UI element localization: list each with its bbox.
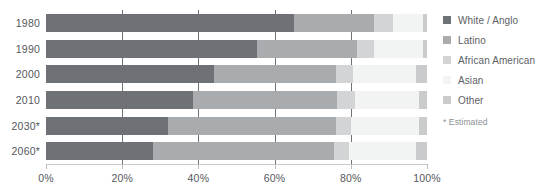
bar-segment — [423, 14, 427, 32]
legend-item-label: Latino — [458, 35, 486, 46]
x-axis-tick — [122, 164, 123, 169]
legend-item[interactable]: Other — [443, 90, 550, 110]
stacked-bar-chart: 19801990200020102030*2060* 0%20%40%60%80… — [0, 0, 550, 193]
x-axis-tick — [427, 164, 428, 169]
x-axis-label-0: 0% — [38, 172, 54, 184]
bar-segment — [294, 14, 374, 32]
bar-segment — [193, 91, 338, 109]
bar-segment — [393, 14, 423, 32]
bar-row — [46, 142, 427, 160]
x-axis-label-80: 80% — [340, 172, 362, 184]
x-axis-label-20: 20% — [111, 172, 133, 184]
legend-items: White / AngloLatinoAfrican AmericanAsian… — [443, 10, 550, 110]
bar-segment — [334, 142, 349, 160]
bar-segment — [46, 65, 214, 83]
legend-item[interactable]: Asian — [443, 70, 550, 90]
plot-area — [46, 10, 427, 164]
legend-swatch-icon — [443, 16, 451, 24]
legend-item[interactable]: Latino — [443, 30, 550, 50]
legend-item-label: White / Anglo — [458, 15, 518, 26]
bar-segment — [416, 65, 427, 83]
bar-segment — [357, 40, 374, 58]
legend-item-label: African American — [458, 55, 535, 66]
bar-segment — [337, 91, 354, 109]
bar-segment — [336, 65, 353, 83]
x-axis-tick — [46, 164, 47, 169]
bar-segment — [46, 40, 257, 58]
legend: White / AngloLatinoAfrican AmericanAsian… — [443, 10, 550, 127]
bar-row — [46, 65, 427, 83]
legend-swatch-icon — [443, 36, 451, 44]
legend-item-label: Other — [458, 95, 484, 106]
bar-segment — [336, 117, 351, 135]
bar-series-container — [46, 10, 427, 164]
bar-row — [46, 117, 427, 135]
bar-segment — [374, 40, 424, 58]
legend-swatch-icon — [443, 76, 451, 84]
bar-segment — [46, 117, 168, 135]
bar-row — [46, 91, 427, 109]
y-axis-label-2030-est: 2030* — [0, 121, 40, 132]
bar-segment — [351, 117, 420, 135]
x-axis-tick — [275, 164, 276, 169]
x-axis: 0%20%40%60%80%100% — [46, 164, 427, 192]
y-axis-label-1990: 1990 — [0, 44, 40, 55]
bar-segment — [355, 91, 420, 109]
y-axis-label-2060-est: 2060* — [0, 146, 40, 157]
bar-segment — [419, 91, 427, 109]
bar-segment — [374, 14, 393, 32]
x-axis-tick — [198, 164, 199, 169]
bar-row — [46, 40, 427, 58]
legend-footnote: * Estimated — [443, 117, 550, 127]
bar-segment — [419, 117, 427, 135]
x-axis-label-40: 40% — [188, 172, 210, 184]
bar-segment — [416, 142, 427, 160]
bar-segment — [353, 65, 416, 83]
legend-item[interactable]: African American — [443, 50, 550, 70]
bar-segment — [257, 40, 356, 58]
y-axis-label-2000: 2000 — [0, 69, 40, 80]
x-axis-label-60: 60% — [264, 172, 286, 184]
x-axis-line — [46, 164, 427, 165]
y-axis-category-labels: 19801990200020102030*2060* — [0, 10, 40, 164]
legend-item[interactable]: White / Anglo — [443, 10, 550, 30]
bar-segment — [214, 65, 336, 83]
legend-swatch-icon — [443, 96, 451, 104]
y-axis-label-1980: 1980 — [0, 18, 40, 29]
bar-segment — [46, 14, 294, 32]
y-axis-label-2010: 2010 — [0, 95, 40, 106]
x-axis-tick — [351, 164, 352, 169]
bar-segment — [168, 117, 336, 135]
legend-item-label: Asian — [458, 75, 484, 86]
bar-segment — [423, 40, 427, 58]
legend-swatch-icon — [443, 56, 451, 64]
bar-segment — [46, 91, 193, 109]
bar-segment — [46, 142, 153, 160]
bar-segment — [153, 142, 334, 160]
x-axis-label-100: 100% — [413, 172, 441, 184]
bar-row — [46, 14, 427, 32]
bar-segment — [349, 142, 416, 160]
